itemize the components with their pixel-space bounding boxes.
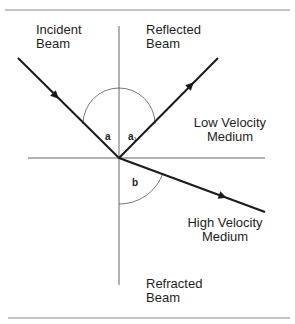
incident-label-line2: Beam — [36, 37, 82, 51]
low-medium-line1: Low Velocity — [180, 116, 280, 130]
reflected-label-line1: Reflected — [146, 23, 201, 37]
refraction-arc — [119, 173, 163, 204]
high-medium-line1: High Velocity — [175, 216, 275, 230]
angle-incidence-label: a — [105, 131, 111, 142]
low-velocity-medium-label: Low Velocity Medium — [180, 116, 280, 144]
angle-refraction-label: b — [132, 177, 138, 188]
refracted-beam — [119, 158, 265, 212]
high-velocity-medium-label: High Velocity Medium — [175, 216, 275, 244]
refracted-label-line1: Refracted — [146, 277, 202, 291]
refracted-arrow-icon — [218, 191, 228, 201]
angle-reflection-label: a1 — [128, 131, 137, 142]
reflected-beam-label: Reflected Beam — [146, 23, 201, 51]
high-medium-line2: Medium — [175, 230, 275, 244]
incident-beam-label: Incident Beam — [36, 23, 82, 51]
incident-label-line1: Incident — [36, 23, 82, 37]
refracted-beam-label: Refracted Beam — [146, 277, 202, 305]
low-medium-line2: Medium — [180, 130, 280, 144]
reflected-label-line2: Beam — [146, 37, 201, 51]
incident-beam — [18, 58, 119, 158]
angle-reflection-subscript: 1 — [134, 136, 137, 142]
refracted-label-line2: Beam — [146, 291, 202, 305]
